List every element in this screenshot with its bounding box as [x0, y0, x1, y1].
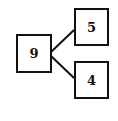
connector-line-top [51, 30, 74, 52]
connector-line-bottom [51, 56, 74, 78]
whole-value: 9 [29, 46, 38, 61]
part-box-bottom: 4 [74, 61, 109, 99]
part-value-bottom: 4 [87, 73, 96, 88]
part-value-top: 5 [87, 20, 96, 35]
whole-box: 9 [16, 34, 52, 73]
part-box-top: 5 [74, 8, 109, 46]
